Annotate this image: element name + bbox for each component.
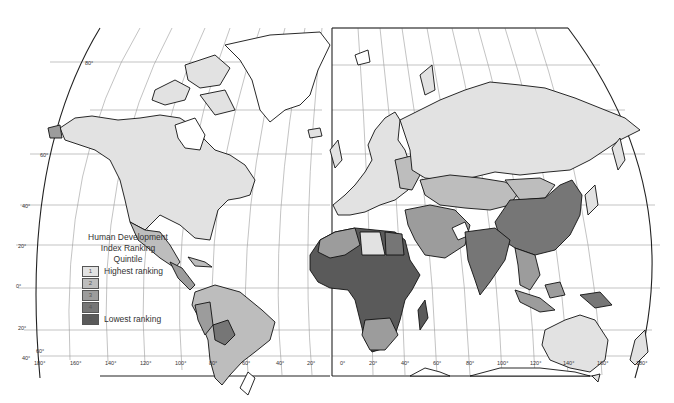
lat-label: 20° <box>18 325 26 331</box>
lon-label: 100° <box>497 360 508 366</box>
legend-swatch: 4 <box>82 302 99 313</box>
lat-label: 0° <box>16 283 21 289</box>
lon-label: 60° <box>433 360 441 366</box>
legend-item-quintile-2: 2 <box>78 277 198 289</box>
lon-label: 180° <box>636 360 647 366</box>
legend-title-line1: Human Development <box>78 232 178 243</box>
legend-item-quintile-4: 4 <box>78 301 198 313</box>
legend-label: Lowest ranking <box>104 314 161 324</box>
lon-label: 140° <box>105 360 116 366</box>
region-japan <box>585 185 598 215</box>
lon-label: 180° <box>34 360 45 366</box>
legend-subtitle: Quintile <box>78 254 178 265</box>
legend-item-quintile-5: 5 Lowest ranking <box>78 313 198 325</box>
legend-item-quintile-3: 3 <box>78 289 198 301</box>
lat-label: 60° <box>36 348 44 354</box>
lon-label: 60° <box>242 360 250 366</box>
landmasses <box>48 32 648 395</box>
lon-label: 40° <box>276 360 284 366</box>
world-map: 80° 60° 40° 20° 0° 20° 40° 60° 180° 160°… <box>0 0 674 403</box>
lon-label: 120° <box>530 360 541 366</box>
lon-label: 80° <box>466 360 474 366</box>
lat-label: 20° <box>18 243 26 249</box>
lon-label: 100° <box>175 360 186 366</box>
lon-label: 20° <box>369 360 377 366</box>
lon-label: 20° <box>307 360 315 366</box>
legend-title-line2: Index Ranking <box>78 243 178 254</box>
legend-swatch: 2 <box>82 278 99 289</box>
region-madagascar <box>418 300 428 330</box>
region-russia <box>400 82 640 180</box>
lon-label: 160° <box>597 360 608 366</box>
legend-label: Highest ranking <box>104 266 163 276</box>
region-north-america <box>60 115 255 240</box>
lon-label: 160° <box>70 360 81 366</box>
lat-label: 80° <box>85 60 93 66</box>
lon-label: 0° <box>340 360 345 366</box>
lat-label: 60° <box>40 152 48 158</box>
legend-swatch: 1 <box>82 266 99 277</box>
lat-label: 40° <box>22 355 30 361</box>
lon-label: 140° <box>563 360 574 366</box>
lon-label: 40° <box>401 360 409 366</box>
map-legend: Human Development Index Ranking Quintile… <box>78 232 198 325</box>
lon-label: 120° <box>140 360 151 366</box>
region-india <box>465 228 510 295</box>
lat-label: 40° <box>22 203 30 209</box>
legend-item-quintile-1: 1 Highest ranking <box>78 265 198 277</box>
map-canvas: 80° 60° 40° 20° 0° 20° 40° 60° 180° 160°… <box>0 0 674 403</box>
lon-label: 80° <box>209 360 217 366</box>
region-papua-new-guinea <box>580 292 612 308</box>
legend-swatch: 3 <box>82 290 99 301</box>
legend-swatch: 5 <box>82 314 99 325</box>
